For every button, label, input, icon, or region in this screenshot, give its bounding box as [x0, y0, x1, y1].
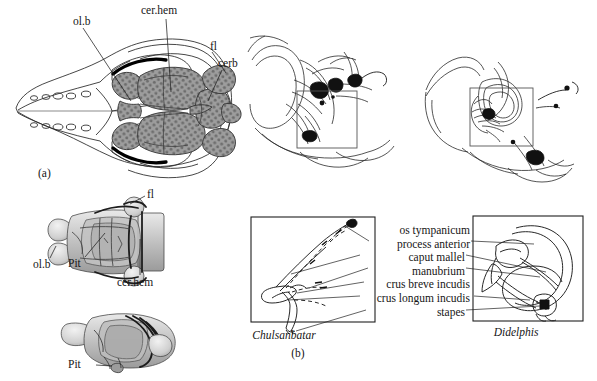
taxon-didelphis: Didelphis	[494, 327, 539, 339]
label-process-anterior: process anterior	[397, 239, 470, 251]
panel-a-caption: (a)	[38, 168, 51, 180]
label-stapes: stapes	[437, 307, 465, 319]
ear-region-drawing-left	[248, 36, 394, 167]
figure-root: ol.b cer.hem fl cerb (a) fl ol.b Pit cer…	[0, 0, 597, 381]
label-fl-endocast: fl	[147, 189, 154, 201]
label-manubrium: manubrium	[412, 266, 465, 278]
taxon-chulsanbatar: Chulsanbatar	[252, 330, 315, 342]
label-ol-b-endocast: ol.b	[33, 259, 51, 271]
endocast-dorsal-view	[48, 196, 164, 286]
label-crus-longum-incudis: crus longum incudis	[377, 293, 470, 305]
label-fl-skull: fl	[210, 41, 217, 53]
label-cerb-skull: cerb	[218, 58, 238, 70]
label-crus-breve-incudis: crus breve incudis	[386, 279, 470, 291]
panel-b-caption: (b)	[291, 348, 304, 360]
label-cer-hem-skull: cer.hem	[141, 5, 177, 17]
label-cer-hem-endocast: cer.hem	[117, 277, 153, 289]
label-pit-endocast-lateral: Pit	[68, 359, 81, 371]
inset-box-right	[470, 88, 533, 146]
label-caput-mallel: caput mallel	[408, 252, 465, 264]
figure-artwork	[0, 0, 597, 381]
ear-region-drawing-right	[425, 57, 578, 182]
brain-endocast-dorsal	[112, 65, 241, 156]
label-os-tympanicum: os tympanicum	[399, 225, 470, 237]
label-ol-b-skull: ol.b	[73, 16, 91, 28]
label-pit-endocast-dorsal: Pit	[68, 258, 81, 270]
